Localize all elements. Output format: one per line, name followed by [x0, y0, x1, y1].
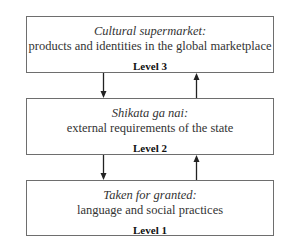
- arrow-down-3-to-2-icon: [101, 73, 107, 98]
- arrow-up-2-to-3-icon: [194, 73, 200, 98]
- arrow-down-2-to-1-icon: [101, 155, 107, 180]
- arrows-layer: [0, 0, 291, 249]
- arrow-up-1-to-2-icon: [194, 155, 200, 180]
